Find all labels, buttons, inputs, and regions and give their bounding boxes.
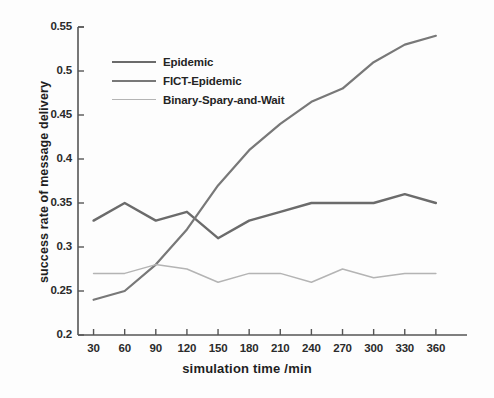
legend-swatch-epidemic bbox=[112, 61, 156, 63]
y-tick-label: 0.55 bbox=[28, 20, 72, 32]
legend-swatch-binary-spary-and-wait bbox=[112, 99, 156, 100]
legend-label-binary-spary-and-wait: Binary-Spary-and-Wait bbox=[163, 94, 284, 106]
legend-item-binary-spary-and-wait: Binary-Spary-and-Wait bbox=[112, 93, 284, 106]
y-tick-label: 0.2 bbox=[28, 328, 72, 340]
legend-label-fict-epidemic: FICT-Epidemic bbox=[163, 75, 242, 87]
legend-swatch-fict-epidemic bbox=[112, 80, 156, 82]
chart-legend: Epidemic FICT-Epidemic Binary-Spary-and-… bbox=[112, 55, 284, 106]
y-axis-title: success rate of message delivery bbox=[37, 52, 51, 312]
chart-figure: 0.20.250.30.350.40.450.50.55 30609012015… bbox=[0, 0, 494, 398]
legend-item-fict-epidemic: FICT-Epidemic bbox=[112, 74, 284, 87]
x-tick-label: 360 bbox=[416, 342, 456, 354]
legend-item-epidemic: Epidemic bbox=[112, 55, 284, 68]
x-axis-title: simulation time /min bbox=[0, 361, 494, 376]
legend-label-epidemic: Epidemic bbox=[163, 56, 213, 68]
